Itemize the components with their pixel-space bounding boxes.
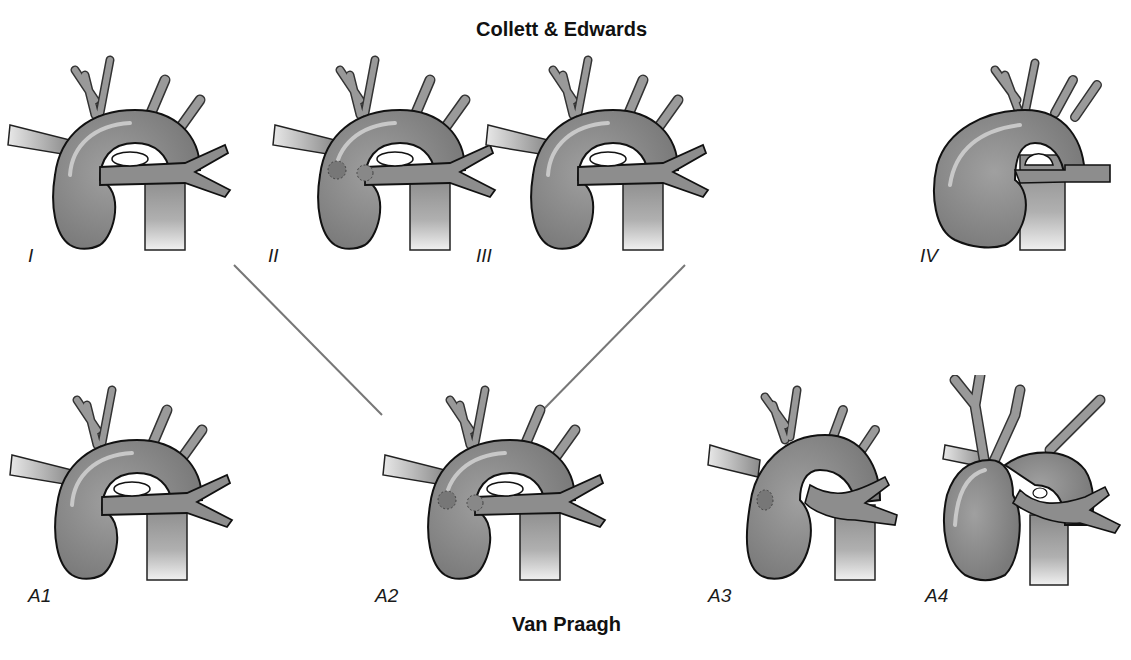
aortic-arch-illustration (375, 385, 615, 585)
figure-type-A3 (705, 385, 905, 589)
figure-type-A1 (2, 385, 242, 589)
figure-type-A2 (375, 385, 615, 589)
label-type-A4: A4 (925, 585, 948, 607)
label-type-A2: A2 (375, 585, 398, 607)
connector-II-to-A2 (234, 265, 382, 415)
label-type-A3: A3 (708, 585, 731, 607)
label-type-A1: A1 (28, 585, 51, 607)
figure-type-A4 (925, 375, 1131, 594)
aortic-arch-illustration (705, 385, 905, 585)
aortic-arch-illustration (2, 385, 242, 585)
van-praagh-title: Van Praagh (512, 613, 621, 636)
aortic-arch-illustration (925, 375, 1131, 590)
